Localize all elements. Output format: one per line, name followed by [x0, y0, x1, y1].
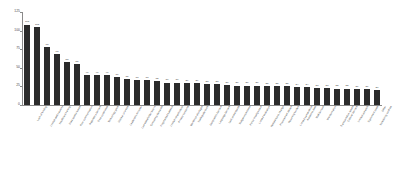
bar-value-label: 22: [346, 85, 349, 88]
bar-rect: [314, 88, 320, 105]
bar[interactable]: 22: [334, 12, 340, 105]
bar-rect: [34, 27, 40, 105]
bar[interactable]: 30: [164, 12, 170, 105]
bar-rect: [344, 89, 350, 105]
bar-rect: [284, 86, 290, 105]
bar[interactable]: 26: [234, 12, 240, 105]
bar[interactable]: 21: [354, 12, 360, 105]
bar[interactable]: 25: [264, 12, 270, 105]
bar[interactable]: 26: [244, 12, 250, 105]
bar-value-label: 26: [246, 82, 249, 85]
bar-value-label: 68: [56, 51, 59, 54]
y-tick-mark: [20, 86, 22, 87]
bar[interactable]: 29: [184, 12, 190, 105]
bar[interactable]: 37: [114, 12, 120, 105]
bar[interactable]: 28: [214, 12, 220, 105]
bar[interactable]: 29: [194, 12, 200, 105]
bar-rect: [324, 88, 330, 105]
y-tick-mark: [20, 12, 22, 13]
y-tick-mark: [20, 68, 22, 69]
bar[interactable]: 108: [24, 12, 30, 105]
bar[interactable]: 27: [224, 12, 230, 105]
bar-value-label: 25: [266, 83, 269, 86]
bar[interactable]: 20: [374, 12, 380, 105]
bar-value-label: 24: [296, 84, 299, 87]
bar[interactable]: 105: [34, 12, 40, 105]
y-tick-mark: [20, 49, 22, 50]
bar-rect: [74, 64, 80, 105]
bar-rect: [144, 80, 150, 105]
bar[interactable]: 23: [324, 12, 330, 105]
bar[interactable]: 23: [314, 12, 320, 105]
bar-value-label: 40: [86, 72, 89, 75]
bar-value-label: 29: [186, 80, 189, 83]
bar[interactable]: 25: [274, 12, 280, 105]
x-tick-label: Misinformation: [327, 106, 337, 121]
bar-value-label: 22: [336, 85, 339, 88]
bar-rect: [94, 75, 100, 105]
bar-rect: [234, 86, 240, 105]
bar-value-label: 105: [35, 24, 39, 27]
bar-value-label: 32: [156, 78, 159, 81]
bar-value-label: 29: [196, 80, 199, 83]
bar[interactable]: 21: [364, 12, 370, 105]
bar-value-label: 40: [96, 72, 99, 75]
bar[interactable]: 26: [254, 12, 260, 105]
bar[interactable]: 32: [154, 12, 160, 105]
bar[interactable]: 55: [74, 12, 80, 105]
bar[interactable]: 40: [84, 12, 90, 105]
bar[interactable]: 68: [54, 12, 60, 105]
bar-rect: [24, 25, 30, 105]
bar-rect: [364, 89, 370, 105]
bar[interactable]: 30: [174, 12, 180, 105]
bar-series: 1081057868585540404037353333323030292928…: [22, 12, 382, 105]
bar-value-label: 78: [46, 44, 49, 47]
bar-value-label: 28: [206, 81, 209, 84]
bar-rect: [194, 83, 200, 105]
bar[interactable]: 33: [134, 12, 140, 105]
bar-value-label: 27: [226, 82, 229, 85]
bar-rect: [124, 79, 130, 105]
bar-rect: [304, 87, 310, 105]
bar-rect: [184, 83, 190, 105]
bar[interactable]: 24: [304, 12, 310, 105]
bar-value-label: 25: [286, 83, 289, 86]
bar-rect: [374, 90, 380, 105]
bar[interactable]: 33: [144, 12, 150, 105]
bar-value-label: 25: [276, 83, 279, 86]
bar-rect: [294, 87, 300, 105]
bar[interactable]: 40: [94, 12, 100, 105]
bar-value-label: 108: [25, 21, 29, 24]
bar[interactable]: 22: [344, 12, 350, 105]
bar[interactable]: 40: [104, 12, 110, 105]
bar[interactable]: 28: [204, 12, 210, 105]
x-tick-label: Equipment costs: [368, 106, 379, 123]
bar-value-label: 33: [136, 77, 139, 80]
plot-area: 1081057868585540404037353333323030292928…: [22, 12, 382, 105]
bar-value-label: 26: [236, 82, 239, 85]
bar-rect: [54, 54, 60, 105]
bar-rect: [154, 81, 160, 105]
bar-rect: [114, 77, 120, 105]
x-tick-label: Unclear priorities: [118, 106, 130, 124]
bar-rect: [264, 86, 270, 105]
bar-rect: [134, 80, 140, 105]
x-axis-tick-labels: Lack of fundingLimited staff capacityIns…: [22, 106, 382, 170]
bar-rect: [274, 86, 280, 105]
bar[interactable]: 78: [44, 12, 50, 105]
bar-rect: [354, 89, 360, 105]
bar[interactable]: 35: [124, 12, 130, 105]
bar-value-label: 26: [256, 82, 259, 85]
x-tick-label: Leadership turnover: [130, 106, 143, 127]
x-tick-label: Lack of funding: [37, 106, 48, 122]
bar-value-label: 23: [316, 85, 319, 88]
bar-value-label: 40: [106, 72, 109, 75]
bar[interactable]: 58: [64, 12, 70, 105]
bar-value-label: 35: [126, 76, 129, 79]
bar[interactable]: 25: [284, 12, 290, 105]
bar-value-label: 33: [146, 77, 149, 80]
bar-rect: [254, 86, 260, 105]
bar[interactable]: 24: [294, 12, 300, 105]
bar-value-label: 30: [176, 79, 179, 82]
